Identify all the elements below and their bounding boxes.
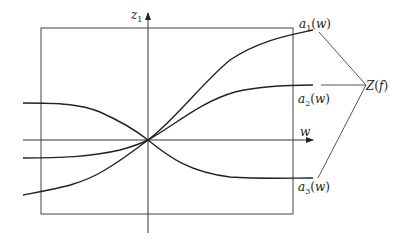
horizontal-axis-label: w: [300, 125, 311, 139]
group-label-zf: Z(f): [365, 79, 388, 93]
label-a1: a1(w): [299, 17, 331, 33]
frame-rectangle: [41, 28, 293, 214]
curve-a1: [23, 30, 313, 195]
vertical-axis-label: z1: [130, 8, 142, 24]
curve-a3: [23, 103, 313, 178]
diagram-canvas: z1 w a1(w) a2(w) a3(w) Z(f): [0, 0, 411, 241]
label-a3: a3(w): [298, 180, 330, 196]
connector-a1: [319, 32, 366, 85]
label-a2: a2(w): [298, 92, 330, 108]
